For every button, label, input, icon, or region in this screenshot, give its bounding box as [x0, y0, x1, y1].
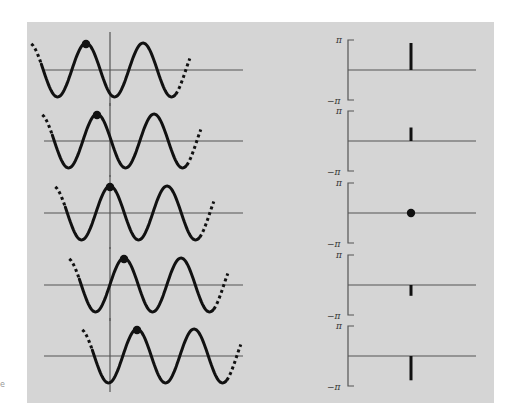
crest-marker — [82, 40, 90, 48]
pi-label: π — [335, 250, 343, 260]
crest-marker — [93, 111, 101, 119]
crest-marker — [133, 326, 141, 334]
phase-shift-figure: π−ππ−ππ−ππ−ππ−π e — [0, 0, 523, 417]
neg-pi-label: −π — [327, 311, 342, 321]
pi-label: π — [335, 178, 343, 188]
neg-pi-label: −π — [327, 96, 342, 106]
pi-label: π — [335, 321, 343, 331]
pi-label: π — [335, 35, 343, 45]
stray-margin-mark: e — [0, 380, 5, 389]
neg-pi-label: −π — [327, 382, 342, 392]
phase-zero-dot — [407, 209, 415, 217]
pi-label: π — [335, 106, 343, 116]
neg-pi-label: −π — [327, 239, 342, 249]
crest-marker — [120, 255, 128, 263]
neg-pi-label: −π — [327, 167, 342, 177]
crest-marker — [106, 183, 114, 191]
